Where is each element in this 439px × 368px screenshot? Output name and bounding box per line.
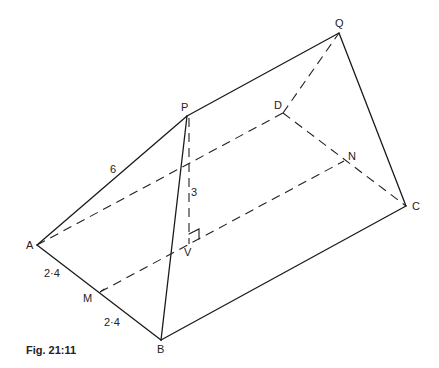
measure-AM: 2·4 [44, 267, 60, 279]
edge-PQ [187, 33, 339, 116]
measure-PV: 3 [191, 186, 197, 198]
label-M: M [83, 292, 92, 304]
edge-PB [161, 116, 187, 340]
label-A: A [26, 239, 34, 251]
edge-BC [161, 206, 406, 340]
label-D: D [274, 99, 282, 111]
label-B: B [157, 343, 164, 355]
prism-diagram: P Q D N C A M B V 6 3 2·4 2·4 Fig. 21:11 [0, 0, 439, 368]
right-angle-marker [189, 229, 199, 239]
measure-MB: 2·4 [104, 316, 120, 328]
edge-AP [37, 116, 187, 245]
label-V: V [184, 246, 192, 258]
label-C: C [412, 200, 420, 212]
figure-caption: Fig. 21:11 [26, 344, 76, 356]
edge-AB [37, 245, 161, 340]
measure-AP: 6 [110, 163, 116, 175]
label-Q: Q [335, 17, 344, 29]
edge-DQ [283, 33, 339, 113]
edge-AD [37, 113, 283, 245]
label-P: P [181, 101, 188, 113]
label-N: N [348, 150, 356, 162]
line-MN [100, 161, 344, 292]
